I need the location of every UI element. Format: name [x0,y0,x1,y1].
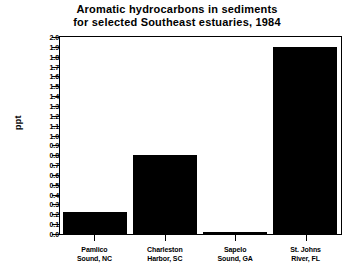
y-axis-tick-mark [52,234,59,235]
y-axis-tick-mark [52,145,59,146]
x-axis-tick-mark [306,235,307,241]
y-axis-tick-mark [52,96,59,97]
y-axis-tick-mark [52,136,59,137]
bar-slot [133,37,197,234]
bar [63,212,127,234]
chart-title: Aromatic hydrocarbons in sediments for s… [0,3,354,29]
x-axis-category-label-line: Sapelo [203,245,268,254]
x-axis-category-label: SapeloSound, GA [203,245,268,263]
bar [273,47,337,234]
bar-slot [203,37,267,234]
x-axis-tick-mark [94,235,95,241]
plot-area [59,36,342,235]
y-axis-tick-mark [52,47,59,48]
x-axis-category-label-line: Pamlico [62,245,127,254]
x-axis-tick-mark [165,235,166,241]
y-axis-tick-mark [52,86,59,87]
x-axis-category-label-line: Sound, GA [203,254,268,263]
y-axis-tick-mark [52,116,59,117]
x-axis-tick-mark [235,235,236,241]
bar-slot [273,37,337,234]
y-axis-title: ppt [13,115,23,130]
y-axis-tick-mark [52,155,59,156]
y-axis-tick-mark [52,185,59,186]
x-axis-category-label: PamlicoSound, NC [62,245,127,263]
y-axis-tick-mark [52,224,59,225]
y-axis-tick-mark [52,165,59,166]
bar-chart-figure: Aromatic hydrocarbons in sediments for s… [0,0,354,276]
chart-title-line-2: for selected Southeast estuaries, 1984 [0,16,354,29]
x-axis-category-label: CharlestonHarbor, SC [132,245,197,263]
x-axis-category-label: St. JohnsRiver, FL [273,245,338,263]
bar-slot [63,37,127,234]
y-axis-tick-mark [52,204,59,205]
y-axis-tick-mark [52,214,59,215]
y-axis-tick-mark [52,37,59,38]
y-axis-tick-mark [52,126,59,127]
chart-title-line-1: Aromatic hydrocarbons in sediments [0,3,354,16]
bar [133,155,197,234]
y-axis-tick-mark [52,195,59,196]
y-axis-tick-mark [52,106,59,107]
x-axis-category-label-line: River, FL [273,254,338,263]
y-axis-tick-mark [52,175,59,176]
x-axis-category-label-line: Charleston [132,245,197,254]
bar [203,232,267,234]
x-axis-category-label-line: Harbor, SC [132,254,197,263]
x-axis-category-label-line: St. Johns [273,245,338,254]
x-axis-label-group: PamlicoSound, NCCharlestonHarbor, SCSape… [59,245,342,263]
y-axis-tick-mark [52,76,59,77]
y-axis-tick-mark [52,57,59,58]
bar-group [60,37,341,234]
x-axis-category-label-line: Sound, NC [62,254,127,263]
y-axis-tick-mark [52,67,59,68]
